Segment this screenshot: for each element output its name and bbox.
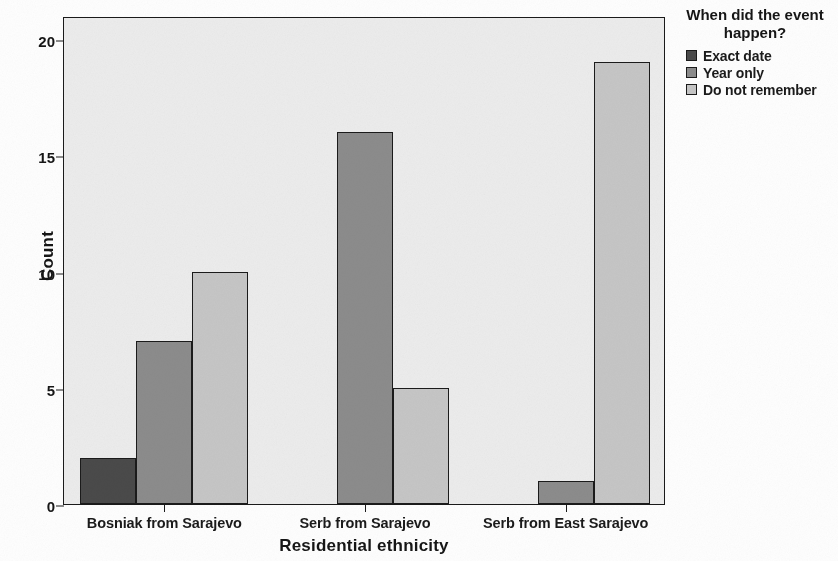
x-tick-label: Serb from East Sarajevo <box>483 515 648 531</box>
legend-item[interactable]: Year only <box>686 65 836 81</box>
bar-group <box>482 18 650 504</box>
legend-item[interactable]: Exact date <box>686 48 836 64</box>
legend-item[interactable]: Do not remember <box>686 82 836 98</box>
y-tick-mark <box>56 506 64 507</box>
bar <box>393 388 449 504</box>
bar <box>80 458 136 504</box>
bar-group <box>80 18 248 504</box>
legend-items: Exact dateYear onlyDo not remember <box>676 48 836 98</box>
legend-title-line-1: When did the event <box>686 6 824 23</box>
plot-area: 05101520 Bosniak from SarajevoSerb from … <box>63 17 665 505</box>
x-tick-label: Bosniak from Sarajevo <box>87 515 242 531</box>
x-tick-mark <box>164 504 165 512</box>
y-tick-mark <box>56 389 64 390</box>
y-tick-mark <box>56 157 64 158</box>
bar <box>538 481 594 504</box>
bar <box>337 132 393 504</box>
legend-title: When did the event happen? <box>676 6 834 43</box>
bar <box>192 272 248 504</box>
x-axis-title: Residential ethnicity <box>63 536 665 556</box>
bar-chart-figure: Count 05101520 Bosniak from SarajevoSerb… <box>0 0 838 561</box>
legend-item-label: Exact date <box>703 48 772 64</box>
x-tick-mark <box>365 504 366 512</box>
legend-item-label: Do not remember <box>703 82 817 98</box>
legend-swatch <box>686 84 697 95</box>
legend: When did the event happen? Exact dateYea… <box>676 6 836 99</box>
legend-swatch <box>686 50 697 61</box>
y-axis-title: Count <box>38 196 58 316</box>
legend-item-label: Year only <box>703 65 764 81</box>
x-tick-mark <box>566 504 567 512</box>
x-tick-label: Serb from Sarajevo <box>299 515 430 531</box>
legend-title-line-2: happen? <box>724 24 787 41</box>
legend-swatch <box>686 67 697 78</box>
y-tick-mark <box>56 41 64 42</box>
y-tick-mark <box>56 273 64 274</box>
bar-group <box>281 18 449 504</box>
bar <box>594 62 650 504</box>
bar <box>136 341 192 504</box>
